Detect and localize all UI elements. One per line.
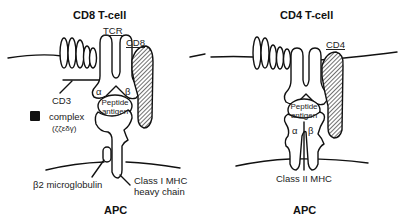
cd4-apc-membrane [236, 159, 368, 166]
cd4-tcr-shape [284, 48, 327, 105]
cd4-peptide-label-1: Peptide [290, 102, 318, 111]
class1-mhc-label-line2: heavy chain [134, 187, 185, 197]
cd8-apc-label: APC [104, 204, 127, 216]
cd3-label-line3: (ζζεδγ) [52, 124, 76, 133]
cd4-peptide-label-2: antigen [290, 111, 318, 120]
cd4-mhc-beta: β [308, 126, 313, 136]
cd4-coreceptor [322, 52, 343, 138]
class1-mhc-heavy-chain [95, 110, 132, 178]
cd4-mhc-alpha: α [292, 126, 298, 136]
b2-microglobulin-label: β2 microglobulin [33, 180, 102, 190]
cd8-tcr-alpha: α [96, 87, 102, 97]
cd4-panel-title: CD4 T-cell [280, 9, 333, 21]
class2-mhc-label: Class II MHC [276, 174, 332, 184]
cd8-peptide-label-2: antigen [101, 107, 129, 116]
cd3-marker-square [30, 111, 40, 121]
cd8-coreceptor [132, 46, 153, 128]
cd8-label: CD8 [126, 38, 145, 48]
tcr-label: TCR [103, 26, 123, 36]
cd4-cd3-complex [253, 37, 291, 69]
cd8-peptide-label-1: Peptide [101, 98, 129, 107]
cd4-apc-label: APC [293, 204, 316, 216]
cd4-tcell-membrane [211, 52, 397, 60]
cd3-label-line2: complex [49, 112, 84, 122]
cd3-pointer-line [60, 81, 72, 93]
cd3-complex [60, 38, 97, 68]
cd8-tcr-beta: β [125, 87, 130, 97]
cd3-label-line1: CD3 [52, 96, 71, 106]
class1-mhc-label-line1: Class I MHC [134, 176, 187, 186]
cd4-label: CD4 [326, 40, 345, 50]
cd8-panel-title: CD8 T-cell [73, 9, 126, 21]
